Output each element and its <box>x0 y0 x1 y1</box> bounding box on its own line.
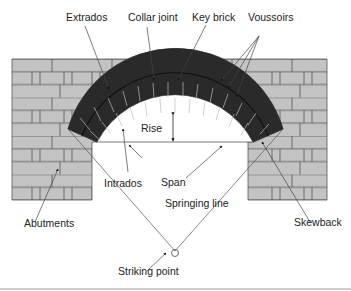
label-intrados: Intrados <box>104 177 142 189</box>
label-abutments: Abutments <box>24 217 74 229</box>
label-key-brick: Key brick <box>192 11 236 23</box>
label-springing-line: Springing line <box>165 197 229 209</box>
label-span: Span <box>161 176 186 188</box>
label-skewback: Skewback <box>294 216 343 228</box>
label-striking-point: Striking point <box>118 265 179 277</box>
label-voussoirs: Voussoirs <box>248 11 294 23</box>
label-rise: Rise <box>141 122 162 134</box>
label-extrados: Extrados <box>66 11 107 23</box>
label-collar-joint: Collar joint <box>128 11 178 23</box>
arch-diagram: Extrados Collar joint Key brick Voussoir… <box>0 0 351 291</box>
